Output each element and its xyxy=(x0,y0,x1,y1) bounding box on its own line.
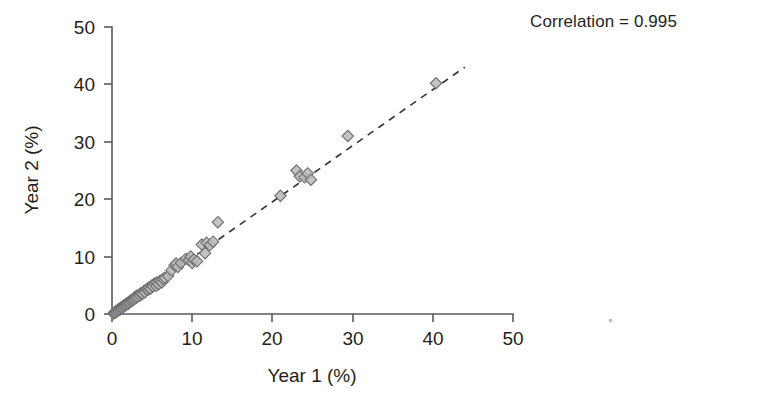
y-tick-label-0: 0 xyxy=(84,304,95,325)
correlation-annotation: Correlation = 0.995 xyxy=(530,12,677,32)
y-tick-label-10: 10 xyxy=(74,247,95,268)
y-tick-label-30: 30 xyxy=(74,132,95,153)
y-axis-ticks xyxy=(104,27,112,314)
x-tick-label-30: 30 xyxy=(342,328,363,349)
data-point xyxy=(430,78,441,89)
x-tick-label-10: 10 xyxy=(181,328,202,349)
x-axis-tick-labels: 0 10 20 30 40 50 xyxy=(107,328,524,349)
plot-canvas: 50 40 30 20 10 0 0 10 20 30 40 50 Year 1… xyxy=(0,0,767,408)
x-tick-label-50: 50 xyxy=(502,328,523,349)
y-tick-label-40: 40 xyxy=(74,74,95,95)
x-axis-title: Year 1 (%) xyxy=(267,365,356,386)
scatter-plot-figure: 50 40 30 20 10 0 0 10 20 30 40 50 Year 1… xyxy=(0,0,767,408)
data-point xyxy=(212,216,223,227)
speck-artifact xyxy=(609,319,612,322)
x-tick-label-40: 40 xyxy=(422,328,443,349)
data-point xyxy=(342,130,353,141)
y-axis-tick-labels: 50 40 30 20 10 0 xyxy=(74,17,95,325)
y-axis-title: Year 2 (%) xyxy=(21,125,42,214)
y-tick-label-50: 50 xyxy=(74,17,95,38)
y-tick-label-20: 20 xyxy=(74,189,95,210)
x-axis-ticks xyxy=(112,314,513,322)
scatter-markers xyxy=(108,78,442,320)
x-tick-label-20: 20 xyxy=(261,328,282,349)
x-tick-label-0: 0 xyxy=(107,328,118,349)
